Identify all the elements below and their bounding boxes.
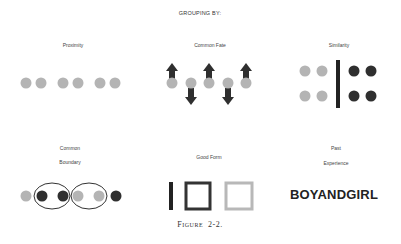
figure-caption: FIGURE 2-2. — [177, 220, 222, 229]
arrow-down-icon — [222, 88, 234, 105]
arrow-down-icon — [185, 88, 197, 105]
arrow-up-icon — [240, 63, 252, 80]
arrow-up-icon — [166, 63, 178, 80]
caption-smallcaps: IGURE — [182, 222, 203, 228]
common-fate-dots — [167, 78, 252, 89]
grouping-diagram — [0, 0, 401, 244]
arrow-up-icon — [203, 63, 215, 80]
good-form-shapes — [169, 182, 252, 210]
proximity-dots — [21, 78, 121, 89]
caption-number: 2-2. — [208, 220, 223, 229]
similarity-dots — [300, 60, 377, 108]
past-experience-word: BOYANDGIRL — [290, 187, 378, 202]
common-boundary-dots — [21, 183, 122, 209]
